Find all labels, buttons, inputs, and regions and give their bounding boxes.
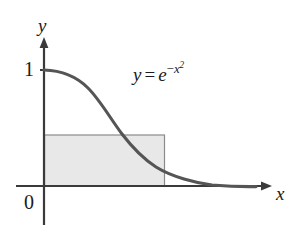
figure-container: y x 1 0 y=e−x2 [0,0,295,229]
y-intercept-label: 1 [24,59,34,79]
equation-exponent-power: 2 [180,60,185,70]
origin-label: 0 [24,192,34,212]
x-axis-label: x [276,184,284,203]
equation-exponent-sign: − [167,61,174,76]
y-axis-arrowhead [40,37,49,48]
equation-lhs: y [133,64,141,85]
equation-base: e [158,64,166,85]
equation-operator: = [144,64,155,85]
x-axis-arrowhead [261,182,272,191]
y-axis-label: y [38,16,46,35]
equation-annotation: y=e−x2 [133,61,184,84]
